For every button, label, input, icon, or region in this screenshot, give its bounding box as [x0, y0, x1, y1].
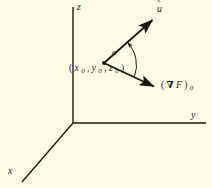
- u-hat-label: ˆ u: [157, 4, 162, 14]
- x-axis-label: x: [8, 166, 12, 176]
- point-y-letter: y: [92, 63, 96, 73]
- hat-accent-icon: ˆ: [157, 0, 160, 10]
- vector-diagram: z y x ˆ u α ( x 0 , y 0 , z 0 ) ( ∇ F ) …: [0, 0, 212, 188]
- diagram-canvas: [0, 0, 212, 188]
- point-x-letter: x: [75, 63, 79, 73]
- point-open-paren: (: [69, 63, 72, 73]
- point-z-subscript: 0: [115, 67, 119, 75]
- alpha-arc: [128, 43, 137, 77]
- grad-open-paren: (: [161, 80, 164, 90]
- grad-F-letter: F: [176, 80, 182, 90]
- nabla-icon: ∇: [167, 79, 174, 90]
- point-y-subscript: 0: [98, 67, 102, 75]
- y-axis-label: y: [191, 110, 195, 120]
- grad-subscript: 0: [190, 84, 194, 92]
- gradient-label: ( ∇ F ) 0: [161, 80, 193, 92]
- grad-close-paren: ): [184, 80, 187, 90]
- point-x-subscript: 0: [81, 67, 85, 75]
- point-close-paren: ): [121, 63, 124, 73]
- x-axis: [22, 123, 73, 182]
- point-z-letter: z: [109, 63, 113, 73]
- base-point-label: ( x 0 , y 0 , z 0 ): [69, 64, 124, 75]
- z-axis-label: z: [77, 2, 81, 12]
- alpha-angle-label: α: [112, 48, 117, 57]
